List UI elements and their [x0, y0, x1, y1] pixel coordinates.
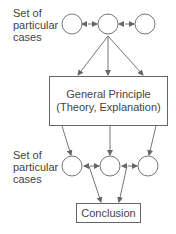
top-label-line-2: particular: [13, 19, 58, 31]
bottom-label-line-1: Set of: [13, 149, 58, 161]
bottom-label-line-2: particular: [13, 161, 58, 173]
top-case-circle-2: [98, 14, 118, 34]
bottom-label-line-3: cases: [13, 173, 58, 185]
bottom-case-circle-3: [138, 156, 158, 176]
bottom-case-circle-1: [62, 156, 82, 176]
top-case-circle-3: [135, 14, 155, 34]
conclusion-box: Conclusion: [76, 203, 141, 223]
principle-title: General Principle: [66, 88, 150, 101]
bottom-cases-label: Set of particular cases: [13, 149, 58, 185]
general-principle-box: General Principle (Theory, Explanation): [49, 76, 168, 126]
top-case-circle-1: [62, 14, 82, 34]
top-cases-label: Set of particular cases: [13, 7, 58, 43]
top-label-line-1: Set of: [13, 7, 58, 19]
conclusion-label: Conclusion: [81, 207, 135, 220]
bottom-case-circle-2: [100, 156, 120, 176]
principle-subtitle: (Theory, Explanation): [56, 101, 160, 114]
top-label-line-3: cases: [13, 31, 58, 43]
